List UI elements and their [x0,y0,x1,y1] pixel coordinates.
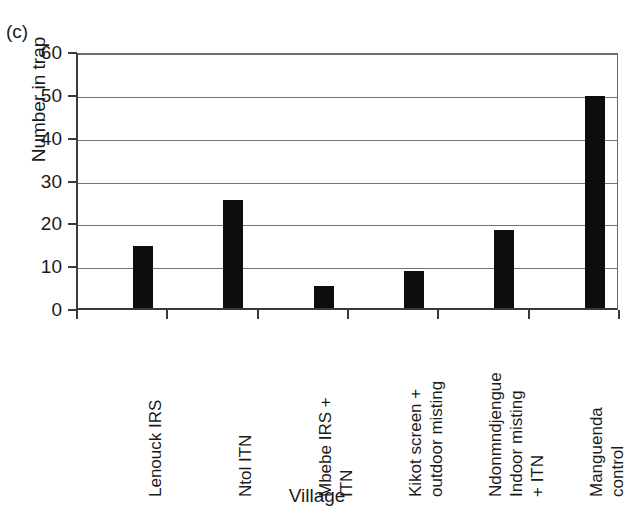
y-tick-label: 10 [41,257,62,276]
x-category-label-line: outdoor misting [428,325,445,497]
gridline-30 [78,183,617,184]
x-category-label: Lenouck IRS [131,325,152,501]
y-tick-label: 20 [41,214,62,233]
x-category-label-line: Ntol ITN [237,325,254,497]
x-category-label: Kikot screen +outdoor misting [391,325,433,501]
y-tick-mark [68,266,77,268]
x-axis-title: Village [0,486,634,505]
x-category-label-line: Indoor misting [508,325,525,497]
bar [585,96,605,308]
y-tick-label: 30 [41,172,62,191]
gridline-40 [78,140,617,141]
x-tick-mark [76,310,78,319]
x-tick-mark [618,310,620,319]
y-tick-mark [68,223,77,225]
x-tick-mark [257,310,259,319]
y-tick-label: 0 [51,300,62,319]
bar [494,230,514,308]
figure-panel-c: (c) Number in trap 0102030405060 Lenouck… [0,0,634,522]
x-category-label: Ntol ITN [221,325,242,501]
plot-area [76,53,618,310]
gridline-50 [78,97,617,98]
bar [133,246,153,308]
y-tick-label: 40 [41,129,62,148]
x-category-label-line: Ndonmndjengue [487,325,504,497]
gridline-20 [78,225,617,226]
x-category-label: Mbebe IRS +ITN [301,325,343,501]
x-category-label-line: Mbebe IRS + [317,325,334,497]
bar [314,286,334,308]
bar [404,271,424,308]
x-category-label-line: + ITN [529,325,546,497]
x-category-label: Manguendacontrol [572,325,614,501]
gridline-10 [78,268,617,269]
x-category-label: NdonmndjengueIndoor misting+ ITN [471,325,534,501]
gridline-60 [78,54,617,55]
x-category-label-line: control [609,325,626,497]
x-category-label-line: Lenouck IRS [147,325,164,497]
bar [223,200,243,308]
y-tick-mark [68,138,77,140]
x-category-label-line: Manguenda [588,325,605,497]
y-tick-label: 50 [41,86,62,105]
x-tick-mark [528,310,530,319]
y-tick-mark [68,309,77,311]
y-axis-tick-labels: 0102030405060 [0,0,76,522]
x-tick-mark [166,310,168,319]
y-tick-mark [68,181,77,183]
x-category-label-line: Kikot screen + [407,325,424,497]
y-tick-mark [68,95,77,97]
y-tick-label: 60 [41,43,62,62]
x-tick-mark [347,310,349,319]
x-tick-mark [437,310,439,319]
x-category-label-line: ITN [338,325,355,497]
y-tick-mark [68,52,77,54]
